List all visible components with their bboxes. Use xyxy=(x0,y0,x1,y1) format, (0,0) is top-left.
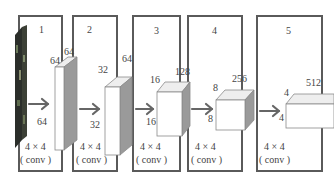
stage-3-op: ( conv ) xyxy=(136,155,167,165)
stage-1-op: ( conv ) xyxy=(20,155,51,165)
feature-map-cube-5 xyxy=(286,94,334,128)
stage-4-depth-label: 256 xyxy=(232,74,247,84)
arrow-icon-5 xyxy=(260,106,279,116)
feature-map-cube-1 xyxy=(55,57,77,150)
stage-5-width-label: 4 xyxy=(284,88,289,98)
stage-2-height-label: 32 xyxy=(90,120,100,130)
stage-4-width-label: 8 xyxy=(213,83,218,93)
stage-2-op: ( conv ) xyxy=(76,155,107,165)
arrow-icon-1 xyxy=(29,99,48,109)
stage-1-index: 1 xyxy=(39,25,44,35)
stage-5-op: ( conv ) xyxy=(259,155,290,165)
stage-3-height-label: 16 xyxy=(146,117,156,127)
stage-1-height-label: 64 xyxy=(37,117,47,127)
stage-5-kernel: 4 × 4 xyxy=(264,142,285,152)
stage-4-height-label: 8 xyxy=(208,114,213,124)
stage-4-kernel: 4 × 4 xyxy=(195,142,216,152)
stage-3-width-label: 16 xyxy=(150,75,160,85)
stage-2-depth-label: 64 xyxy=(122,54,132,64)
stage-2-kernel: 4 × 4 xyxy=(80,142,101,152)
stage-2-index: 2 xyxy=(87,25,92,35)
cnn-architecture-diagram: 1 64 64 64 4 × 4 ( conv ) 2 32 64 32 4 ×… xyxy=(0,0,334,184)
stage-3-depth-label: 128 xyxy=(175,67,190,77)
input-image xyxy=(15,25,27,148)
stage-4-op: ( conv ) xyxy=(191,155,222,165)
feature-map-cube-4 xyxy=(216,90,254,130)
stage-5-depth-label: 512 xyxy=(306,78,321,88)
stage-4-index: 4 xyxy=(212,26,217,36)
feature-map-cube-3 xyxy=(157,82,190,136)
stage-2-width-label: 32 xyxy=(98,65,108,75)
stage-5-index: 5 xyxy=(286,26,291,36)
stage-1-depth-label: 64 xyxy=(50,56,60,66)
arrow-icon-2 xyxy=(80,104,99,114)
stage-3-kernel: 4 × 4 xyxy=(140,142,161,152)
feature-map-cube-2 xyxy=(105,77,132,155)
stage-1-kernel: 4 × 4 xyxy=(25,142,46,152)
arrow-icon-3 xyxy=(136,104,153,114)
stage-3-index: 3 xyxy=(154,26,159,36)
stage-1-width-label: 64 xyxy=(64,47,74,57)
stage-5-height-label: 4 xyxy=(279,113,284,123)
